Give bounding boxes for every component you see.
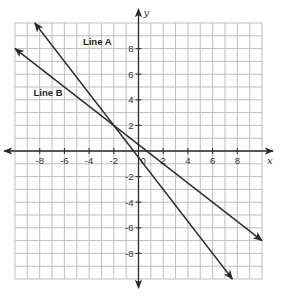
labels: x y 0 (141, 7, 274, 166)
y-tick-label: -4 (125, 197, 133, 208)
x-tick-label: -4 (85, 155, 93, 166)
x-tick-label: 8 (235, 155, 240, 166)
x-axis-label: x (267, 155, 273, 166)
origin-label: 0 (141, 155, 146, 166)
x-tick-label: 6 (210, 155, 215, 166)
line-b-label: Line B (34, 87, 63, 98)
y-axis-label: y (143, 7, 150, 18)
y-tick-label: 8 (128, 43, 133, 54)
y-tick-label: -8 (125, 248, 133, 259)
x-tick-label: -8 (35, 155, 43, 166)
y-tick-label: 6 (128, 69, 133, 80)
axes (4, 9, 273, 288)
x-tick-label: -6 (60, 155, 68, 166)
coordinate-plane: -8-6-4-224688642-2-4-6-8 Line ALine B x … (0, 0, 281, 298)
y-tick-label: -2 (125, 171, 133, 182)
y-tick-label: -6 (125, 222, 133, 233)
y-tick-label: 4 (128, 94, 133, 105)
x-tick-label: -2 (110, 155, 118, 166)
line-a-label: Line A (83, 36, 112, 47)
x-tick-label: 4 (185, 155, 190, 166)
y-tick-label: 2 (128, 120, 133, 131)
